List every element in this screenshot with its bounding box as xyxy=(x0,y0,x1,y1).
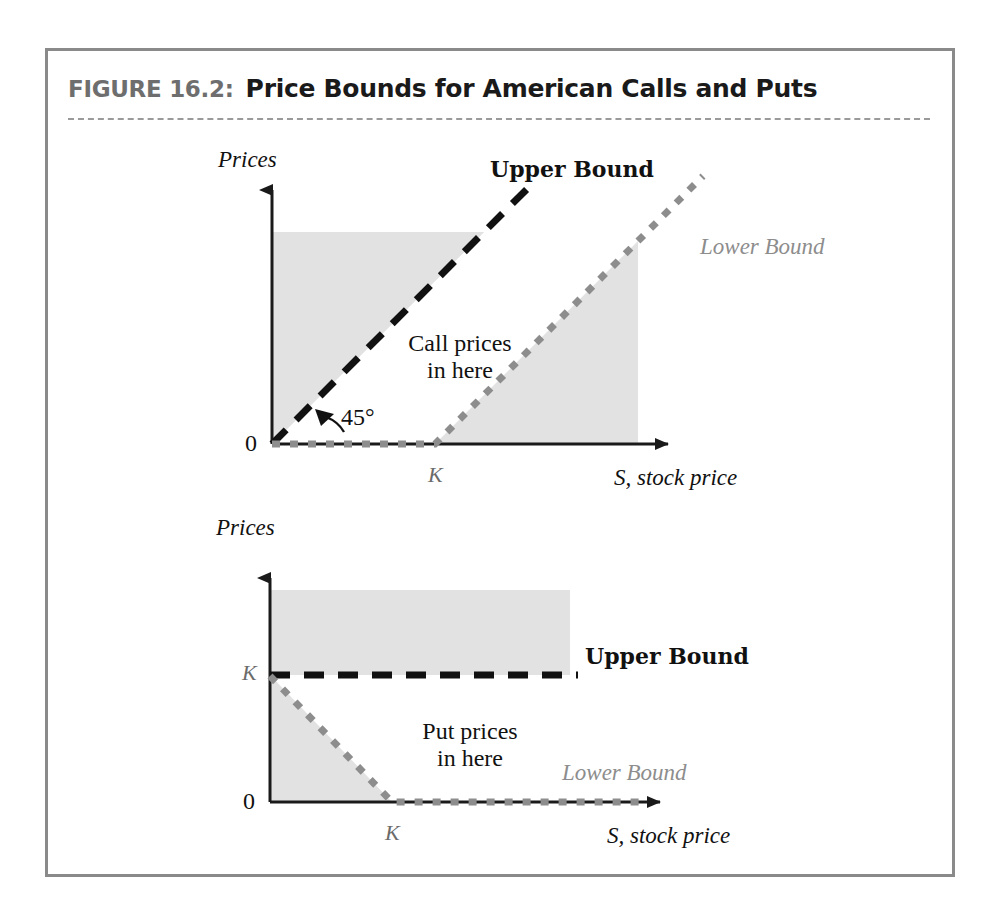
put-region-upper-band xyxy=(270,590,570,675)
call-origin-label: 0 xyxy=(245,430,257,457)
call-y-axis-label: Prices xyxy=(218,147,277,173)
call-upper-bound-label: Upper Bound xyxy=(490,156,654,182)
put-region-label: Put prices in here xyxy=(400,718,540,772)
put-lower-bound-label: Lower Bound xyxy=(562,760,687,786)
put-y-tick-k: K xyxy=(242,660,257,686)
figure-drawing-layer xyxy=(0,0,1004,918)
call-angle-label: 45° xyxy=(341,404,375,431)
call-x-axis-label: S, stock price xyxy=(614,465,737,491)
call-lower-bound-label: Lower Bound xyxy=(700,234,825,260)
call-angle-arrowhead xyxy=(315,409,334,426)
put-x-axis-label: S, stock price xyxy=(607,823,730,849)
put-x-tick-k: K xyxy=(385,820,400,846)
call-region-label-line1: Call prices xyxy=(390,330,530,357)
call-region-label: Call prices in here xyxy=(390,330,530,384)
put-region-label-line2: in here xyxy=(400,745,540,772)
figure-root: FIGURE 16.2: Price Bounds for American C… xyxy=(0,0,1004,918)
put-region-label-line1: Put prices xyxy=(400,718,540,745)
call-region-label-line2: in here xyxy=(390,357,530,384)
chart-american-call xyxy=(272,176,703,444)
put-origin-label: 0 xyxy=(243,788,255,815)
put-y-axis-label: Prices xyxy=(216,515,275,541)
put-upper-bound-label: Upper Bound xyxy=(585,643,749,669)
call-x-tick-k: K xyxy=(428,462,443,488)
